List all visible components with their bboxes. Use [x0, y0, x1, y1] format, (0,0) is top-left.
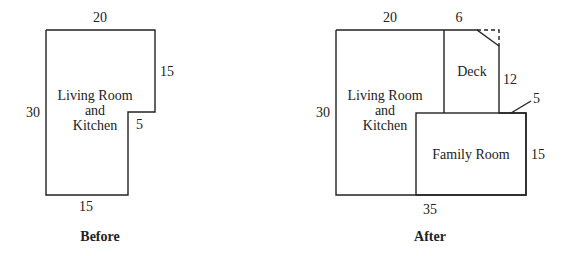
- after-caption: After: [390, 229, 470, 245]
- before-dim-bottom: 15: [66, 199, 106, 215]
- offset-leader-line: [511, 101, 531, 113]
- before-caption: Before: [60, 229, 140, 245]
- after-dim-left: 30: [316, 105, 330, 121]
- after-dim-family-right: 15: [531, 147, 545, 163]
- before-dim-right-upper: 15: [160, 64, 174, 80]
- before-dim-top: 20: [80, 10, 120, 26]
- before-room-label-1: Living Room: [50, 88, 140, 104]
- after-dim-top-deck: 6: [447, 10, 471, 26]
- after-dim-top-left: 20: [370, 10, 410, 26]
- before-room-label-3: Kitchen: [50, 118, 140, 134]
- deck-label: Deck: [446, 64, 498, 80]
- after-living-label-1: Living Room: [340, 88, 430, 104]
- before-room-label-2: and: [50, 103, 140, 119]
- family-room-label: Family Room: [418, 147, 524, 163]
- after-dim-deck-right: 12: [503, 72, 517, 88]
- after-dim-bottom: 35: [410, 202, 450, 218]
- before-dim-left: 30: [26, 105, 40, 121]
- after-living-label-2: and: [340, 103, 430, 119]
- after-living-label-3: Kitchen: [340, 118, 430, 134]
- after-dim-offset: 5: [533, 91, 540, 107]
